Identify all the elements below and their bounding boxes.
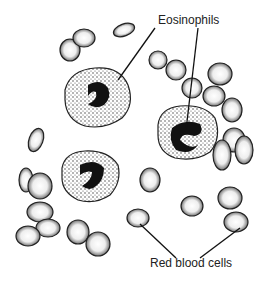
- red-blood-cells-label: Red blood cells: [150, 256, 232, 270]
- eosinophils-label: Eosinophils: [158, 13, 219, 27]
- eosinophil-cell: [62, 151, 119, 202]
- blood-cells-illustration: [0, 0, 270, 284]
